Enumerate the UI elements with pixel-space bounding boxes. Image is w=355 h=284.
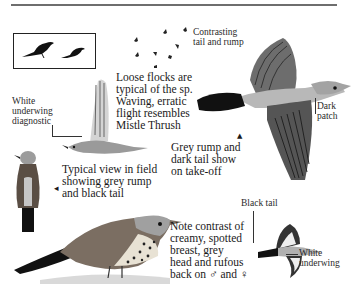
underwing-leader-line-horizontal (52, 136, 82, 137)
dark-patch-note: Dark patch (317, 102, 338, 122)
silhouette-bird-small-icon (60, 44, 86, 60)
grey-rump-note: Grey rump and dark tail show on take-off (171, 141, 241, 177)
typical-view-arrow-icon: ◂ (54, 183, 59, 193)
grey-rump-arrow-icon: ▲ (237, 132, 242, 140)
contrasting-tail-rump-note: Contrasting tail and rump (193, 28, 244, 48)
underwing-leader-line (52, 125, 53, 136)
note-contrast: Note contrast of creamy, spotted breast,… (170, 220, 249, 280)
white-underwing-diagnostic-note: White underwing diagnostic (12, 97, 53, 127)
white-underwing-note: White underwing (299, 249, 340, 269)
dark-patch-leader-line (315, 98, 316, 114)
silhouette-bird-large-icon (20, 38, 56, 60)
black-tail-note: Black tail (241, 199, 278, 209)
top-rule (11, 4, 337, 6)
black-tail-leader-line (253, 211, 254, 243)
loose-flocks-note: Loose flocks are typical of the sp. Wavi… (116, 71, 193, 131)
white-underwing-leader-line (286, 254, 298, 255)
typical-view-note: Typical view in field showing grey rump … (62, 163, 157, 199)
perched-bird-large-icon (10, 200, 185, 284)
